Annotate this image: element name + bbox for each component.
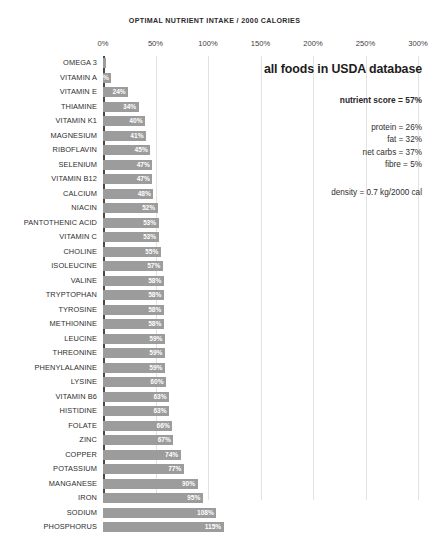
bar-track: 53% [103,216,418,231]
bar-track: 52% [103,201,418,216]
bar-category-label: VALINE [71,274,97,289]
x-tick-label: 300% [408,39,427,48]
bar-track: 57% [103,259,418,274]
bar-value-label: 53% [143,232,159,242]
macro-line: fat = 32% [214,134,422,146]
bar-track: 74% [103,448,418,463]
bar-row: ISOLEUCINE57% [0,259,429,274]
bar-value-label: 45% [135,145,151,155]
bar-category-label: PHOSPHORUS [43,520,97,535]
bar-category-label: METHIONINE [50,317,97,332]
bar-row: METHIONINE58% [0,317,429,332]
bar-category-label: OMEGA 3 [63,56,97,71]
bar-category-label: VITAMIN B12 [51,172,97,187]
bar-category-label: CHOLINE [63,245,97,260]
bar-track: 58% [103,274,418,289]
x-tick-label: 150% [251,39,270,48]
bar-category-label: LYSINE [71,375,97,390]
bar-row: LEUCINE59% [0,332,429,347]
bar-category-label: MANGANESE [49,477,97,492]
macro-line: net carbs = 37% [214,147,422,159]
bar-value-label: 63% [153,406,169,416]
bar-value-label: 90% [182,479,198,489]
nutrient-score-text: nutrient score = 57% [214,95,422,105]
bar-track: 108% [103,506,418,521]
bar-value-label: 59% [149,363,165,373]
bar-track: 53% [103,230,418,245]
chart-title: OPTIMAL NUTRIENT INTAKE / 2000 CALORIES [0,17,429,25]
bar-category-label: NIACIN [71,201,97,216]
bar-category-label: MAGNESIUM [51,129,97,144]
bar-category-label: PHENYLALANINE [35,361,98,376]
x-tick-label: 200% [303,39,322,48]
bar-value-label: 48% [138,189,154,199]
bar-category-label: COPPER [65,448,97,463]
x-tick-label: 50% [148,39,163,48]
bar-category-label: PANTOTHENIC ACID [24,216,97,231]
bar-category-label: RIBOFLAVIN [53,143,97,158]
bar-row: CHOLINE55% [0,245,429,260]
bar-value-label: 58% [148,290,164,300]
bar-value-label: 77% [168,464,184,474]
bar-track: 95% [103,491,418,506]
bar-row: PHOSPHORUS115% [0,520,429,535]
bar-track: 63% [103,404,418,419]
bar-value-label: 47% [137,160,153,170]
bar-row: NIACIN52% [0,201,429,216]
bar-track: 67% [103,433,418,448]
bar-track: 55% [103,245,418,260]
bar-row: VITAMIN B663% [0,390,429,405]
bar-track: 58% [103,303,418,318]
bar-value-label: 58% [148,305,164,315]
bar-track: 59% [103,361,418,376]
bar-category-label: IRON [78,491,97,506]
x-axis-tick-labels: 0%50%100%150%200%250%300% [0,39,429,51]
bar-row: TYROSINE58% [0,303,429,318]
bar-value-label: 55% [145,247,161,257]
bar-row: VITAMIN C53% [0,230,429,245]
bar-track: 59% [103,332,418,347]
bar-category-label: LEUCINE [64,332,97,347]
x-tick-label: 0% [98,39,109,48]
bar-value-label: 57% [147,261,163,271]
bar-value-label: 41% [130,131,146,141]
macro-breakdown: protein = 26%fat = 32%net carbs = 37%fib… [214,122,422,172]
bar-category-label: VITAMIN E [60,85,97,100]
bar-value-label: 34% [123,102,139,112]
bar-row: THREONINE59% [0,346,429,361]
bar-row: COPPER74% [0,448,429,463]
bar-value-label: 108% [197,508,216,518]
bar-row: POTASSIUM77% [0,462,429,477]
bar-value-label: 60% [150,377,166,387]
summary-heading: all foods in USDA database [214,62,422,76]
bar-category-label: THIAMINE [61,100,97,115]
bar-category-label: VITAMIN A [60,71,97,86]
bar-category-label: CALCIUM [63,187,97,202]
bar-track: 60% [103,375,418,390]
bar-value-label: 53% [143,218,159,228]
bar-row: SODIUM108% [0,506,429,521]
bar-category-label: ISOLEUCINE [51,259,97,274]
bar-category-label: VITAMIN K1 [55,114,97,129]
bar-category-label: TRYPTOPHAN [46,288,97,303]
bar-track: 59% [103,346,418,361]
bar-track: 90% [103,477,418,492]
bar-track: 115% [103,520,418,535]
bar-value-label: 59% [149,334,165,344]
bar-value-label: 40% [129,116,145,126]
bar-value-label: 58% [148,319,164,329]
bar-track: 77% [103,462,418,477]
bar-category-label: FOLATE [68,419,97,434]
bar-row: VALINE58% [0,274,429,289]
bar-track: 58% [103,288,418,303]
bar-value-label: 59% [149,348,165,358]
bar-row: MANGANESE90% [0,477,429,492]
bar-value-label: 95% [187,493,203,503]
bar-category-label: POTASSIUM [53,462,97,477]
bar-track: 58% [103,317,418,332]
bar-category-label: VITAMIN B6 [55,390,97,405]
bar-value-label: 63% [153,392,169,402]
bar-category-label: SODIUM [67,506,97,521]
macro-line: fibre = 5% [214,159,422,171]
